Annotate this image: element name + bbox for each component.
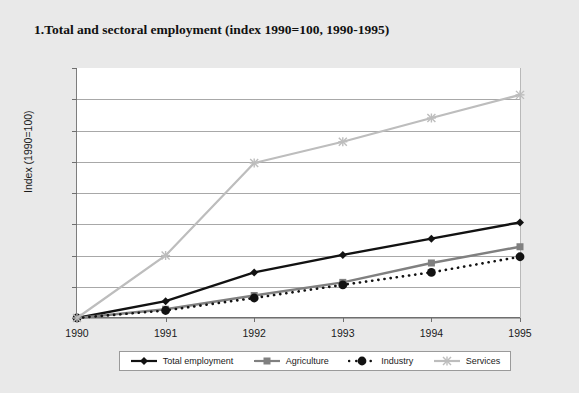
plot-area: 100105110115120125130135140 199019911992… [76, 68, 521, 318]
diamond-marker-icon [130, 355, 158, 367]
x-axis-tick-label: 1991 [154, 327, 177, 339]
y-axis-title: Index (1990=100) [22, 110, 34, 193]
figure-number: 1. [34, 22, 44, 38]
series-agriculture [74, 243, 524, 321]
legend-item-agriculture[interactable]: Agriculture [253, 355, 329, 367]
star-marker-icon [433, 355, 461, 367]
legend-label: Total employment [163, 356, 234, 366]
square-marker-icon [253, 355, 281, 367]
legend-item-industry[interactable]: Industry [348, 355, 413, 367]
chart-figure: 1. Total and sectoral employment (index … [0, 0, 579, 393]
page-title: Total and sectoral employment (index 199… [44, 22, 389, 38]
circle-marker-icon [348, 355, 376, 367]
legend-label: Services [466, 356, 501, 366]
x-axis-tick-label: 1994 [420, 327, 443, 339]
series-services [73, 90, 525, 322]
x-axis-tick-label: 1990 [65, 327, 88, 339]
x-axis-tick-label: 1993 [331, 327, 354, 339]
legend-label: Industry [381, 356, 413, 366]
series-lines [77, 68, 520, 318]
series-total-employment [73, 218, 524, 322]
x-axis-tick [254, 318, 255, 322]
legend-item-total-employment[interactable]: Total employment [130, 355, 234, 367]
x-axis-tick [343, 318, 344, 322]
x-axis-tick [520, 318, 521, 322]
legend-label: Agriculture [286, 356, 329, 366]
x-axis-tick [166, 318, 167, 322]
figure-title: 1. Total and sectoral employment (index … [34, 22, 389, 38]
x-axis-tick [431, 318, 432, 322]
x-axis-tick-label: 1995 [508, 327, 531, 339]
gridline [77, 318, 520, 319]
x-axis-tick-label: 1992 [243, 327, 266, 339]
chart-legend: Total employmentAgricultureIndustryServi… [119, 351, 511, 371]
legend-item-services[interactable]: Services [433, 355, 501, 367]
